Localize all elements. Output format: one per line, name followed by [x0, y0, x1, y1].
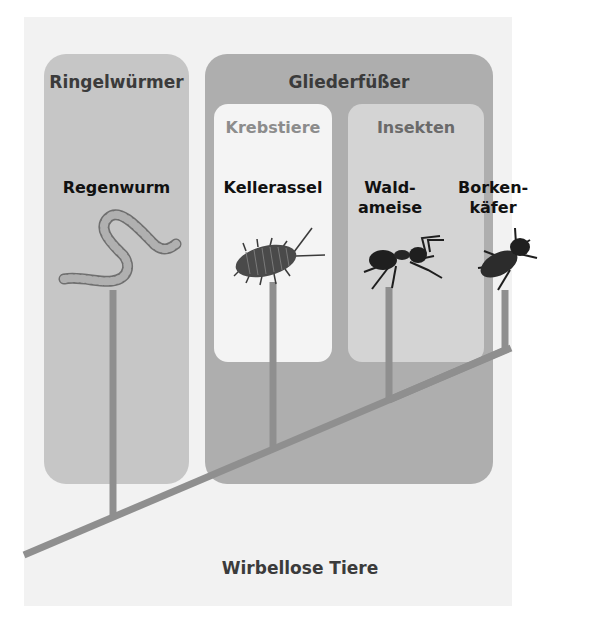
species-label-waldameise: Wald- ameise: [356, 178, 424, 218]
ant-icon: [364, 236, 444, 289]
subgroup-title-krebstiere: Krebstiere: [214, 118, 332, 137]
bark-beetle-icon: [476, 228, 537, 290]
species-label-waldameise-line2: ameise: [356, 198, 424, 218]
subgroup-title-insekten: Insekten: [348, 118, 484, 137]
earthworm-icon: [64, 215, 176, 282]
group-title-ringelwuermer: Ringelwürmer: [44, 72, 189, 92]
species-label-kellerassel: Kellerassel: [214, 178, 332, 198]
branch-borkenkaefer: [389, 290, 505, 400]
species-label-borkenkaefer: Borken- käfer: [458, 178, 528, 218]
phylogenetic-tree: [0, 0, 600, 621]
woodlouse-icon: [232, 228, 325, 285]
species-label-borkenkaefer-line1: Borken-: [458, 178, 528, 198]
species-label-waldameise-line1: Wald-: [356, 178, 424, 198]
group-title-gliederfuesser: Gliederfüßer: [205, 72, 493, 92]
species-label-regenwurm: Regenwurm: [44, 178, 189, 198]
species-label-borkenkaefer-line2: käfer: [458, 198, 528, 218]
root-label: Wirbellose Tiere: [0, 558, 600, 578]
